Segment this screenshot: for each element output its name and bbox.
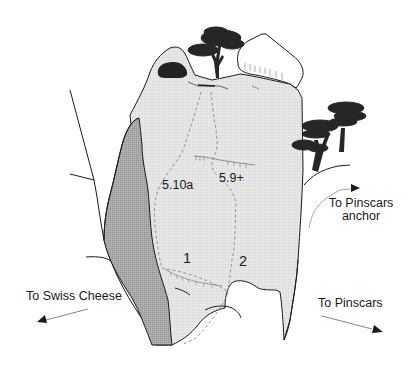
summit-tree-icon [188,27,244,78]
to-pinscars-anchor-line2: anchor [325,210,397,223]
left-ledge-line [70,174,94,180]
to-pinscars-anchor-label: To Pinscars anchor [325,197,397,223]
summit-anchor [198,85,215,86]
route-1-number-label: 1 [183,252,191,265]
to-swiss-cheese-arrow [37,309,88,323]
topo-diagram [0,0,418,366]
to-pinscars-label: To Pinscars [318,297,383,310]
route-1-grade-label: 5.10a [162,179,193,192]
right-tree-branch [304,165,350,185]
route-2-number-label: 2 [239,255,247,268]
route-2-grade-label: 5.9+ [219,172,244,185]
to-pinscars-arrow [322,316,383,333]
to-swiss-cheese-label: To Swiss Cheese [26,290,122,303]
